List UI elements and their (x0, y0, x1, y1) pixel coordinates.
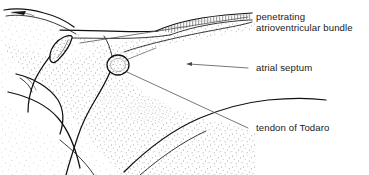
label-tendon-of-todaro-text: tendon of Todaro (256, 122, 329, 133)
anatomical-figure: penetrating atrioventricular bundle atri… (0, 0, 369, 175)
label-penetrating-atrioventricular-bundle: penetrating atrioventricular bundle (256, 11, 353, 33)
anatomy-illustration: penetrating atrioventricular bundle atri… (0, 0, 369, 175)
leader-atrial-septum-arrowhead (186, 62, 192, 66)
label-penetrating-line2: atrioventricular bundle (256, 22, 353, 33)
label-atrial-septum-text: atrial septum (256, 62, 312, 73)
leader-atrial-septum (189, 64, 248, 68)
label-tendon-of-todaro: tendon of Todaro (256, 122, 329, 133)
label-penetrating-line1: penetrating (256, 11, 305, 22)
label-atrial-septum: atrial septum (256, 62, 312, 73)
